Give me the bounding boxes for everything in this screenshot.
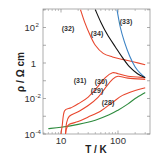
y-tick-label: 1 xyxy=(31,58,36,69)
resistivity-chart: 10-410-21102 10100 (28)(29)(30)(31)(32)(… xyxy=(0,0,162,162)
curve-label-34: (34) xyxy=(91,30,103,38)
x-tick-label: 10 xyxy=(56,135,67,146)
y-tick-label: 10 xyxy=(24,129,35,140)
x-axis-title: T / K xyxy=(85,144,107,155)
curve-label-30: (30) xyxy=(95,78,107,86)
y-tick-label: 10 xyxy=(24,22,35,33)
curve-label-32: (32) xyxy=(62,25,74,33)
y-tick-exponent: 2 xyxy=(36,22,40,28)
curve-label-33: (33) xyxy=(120,18,132,26)
minor-ticks xyxy=(44,9,145,134)
x-tick-label: 100 xyxy=(110,135,126,146)
y-axis-title: ρ / Ω cm xyxy=(15,52,26,92)
y-tick-exponent: -4 xyxy=(36,129,42,135)
y-tick-exponent: -2 xyxy=(36,93,42,99)
curve-label-31: (31) xyxy=(74,77,86,85)
y-tick-label: 10 xyxy=(24,93,35,104)
curve-29 xyxy=(66,88,146,134)
curve-32 xyxy=(81,10,146,65)
curve-label-28: (28) xyxy=(102,99,114,107)
curve-label-29: (29) xyxy=(91,87,103,95)
